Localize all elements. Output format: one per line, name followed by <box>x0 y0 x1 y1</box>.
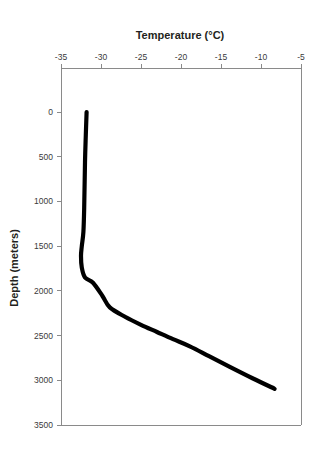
series-line-ice-temperature-profile <box>81 112 275 389</box>
y-tick-label: 0 <box>48 107 53 117</box>
chart-top-axis-title: Temperature (°C) <box>136 29 225 41</box>
y-tick-label: 1500 <box>34 241 53 251</box>
x-tick-label: -15 <box>215 52 228 62</box>
x-tick-label: -35 <box>55 52 68 62</box>
y-tick-label: 500 <box>39 152 53 162</box>
y-tick-label: 1000 <box>34 196 53 206</box>
plot-frame <box>61 68 301 425</box>
temperature-depth-chart: Temperature (°C) Depth (meters) -35-30-2… <box>0 0 319 450</box>
x-tick-label: -30 <box>95 52 108 62</box>
x-tick-label: -25 <box>135 52 148 62</box>
y-tick-label: 2000 <box>34 286 53 296</box>
x-tick-label: -10 <box>255 52 268 62</box>
chart-left-axis-title: Depth (meters) <box>8 229 20 307</box>
x-tick-label: -5 <box>297 52 305 62</box>
y-tick-label: 3500 <box>34 420 53 430</box>
data-series-group <box>81 112 275 389</box>
y-tick-label: 2500 <box>34 331 53 341</box>
x-tick-label: -20 <box>175 52 188 62</box>
x-axis-ticks: -35-30-25-20-15-10-5 <box>55 52 305 68</box>
y-axis-ticks: 0500100015002000250030003500 <box>34 107 61 430</box>
y-tick-label: 3000 <box>34 375 53 385</box>
